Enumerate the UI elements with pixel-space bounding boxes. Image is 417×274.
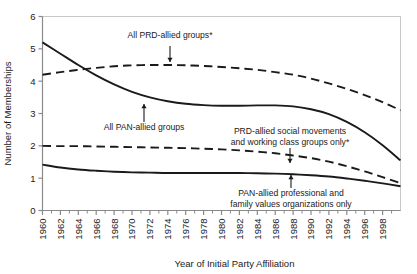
- x-axis-tick-label: 1964: [73, 219, 84, 240]
- y-axis-tick-label: 6: [30, 11, 35, 22]
- data-series-line: [43, 165, 401, 187]
- x-axis-tick-label: 1980: [216, 219, 227, 240]
- x-axis-tick-label: 1966: [91, 219, 102, 240]
- annotation-arrow-head: [167, 58, 172, 62]
- annotation-label: PAN-allied professional and: [238, 188, 344, 198]
- y-axis-title: Number of Memberships: [2, 61, 13, 165]
- x-axis-title: Year of Initial Party Affiliation: [175, 258, 295, 269]
- y-axis-tick-label: 5: [30, 43, 35, 54]
- annotation-label: All PRD-allied groups*: [127, 30, 213, 40]
- x-axis-tick-label: 1994: [341, 219, 352, 240]
- annotation-label: and working class groups only*: [231, 137, 350, 147]
- x-axis-tick-label: 1970: [126, 219, 137, 240]
- x-axis-tick-label: 1990: [305, 219, 316, 240]
- x-axis-tick-label: 1986: [270, 219, 281, 240]
- x-axis-tick-label: 1998: [377, 219, 388, 240]
- y-axis-tick-label: 0: [30, 205, 35, 216]
- x-axis-tick-label: 1960: [37, 219, 48, 240]
- line-chart: 0123456Number of Memberships196019621964…: [0, 0, 417, 274]
- y-axis-tick-label: 1: [30, 173, 35, 184]
- x-axis-tick-label: 1974: [162, 219, 173, 240]
- plot-area-border: [43, 17, 401, 211]
- annotation-label: PRD-allied social movements: [234, 126, 346, 136]
- x-axis-tick-label: 1982: [234, 218, 245, 239]
- y-axis-tick-label: 2: [30, 140, 35, 151]
- chart-figure: 0123456Number of Memberships196019621964…: [0, 0, 417, 274]
- annotation-label: family values organizations only: [230, 199, 352, 209]
- x-axis-tick-label: 1976: [180, 219, 191, 240]
- x-axis-tick-label: 1978: [198, 219, 209, 240]
- x-axis-tick-label: 1992: [323, 219, 334, 240]
- data-series-line: [43, 146, 401, 183]
- x-axis-tick-label: 1968: [109, 219, 120, 240]
- x-axis-tick-label: 1988: [288, 219, 299, 240]
- data-series-line: [43, 65, 401, 110]
- annotation-arrow-head: [141, 104, 146, 108]
- x-axis-tick-label: 1972: [144, 219, 155, 240]
- annotation-label: All PAN-allied groups: [104, 122, 185, 132]
- x-axis-tick-label: 1996: [359, 219, 370, 240]
- x-axis-tick-label: 1962: [55, 219, 66, 240]
- annotation-arrow-head: [287, 159, 292, 163]
- y-axis-tick-label: 3: [30, 108, 35, 119]
- annotation-arrow-head: [288, 175, 293, 179]
- y-axis-tick-label: 4: [30, 76, 35, 87]
- x-axis-tick-label: 1984: [252, 219, 263, 240]
